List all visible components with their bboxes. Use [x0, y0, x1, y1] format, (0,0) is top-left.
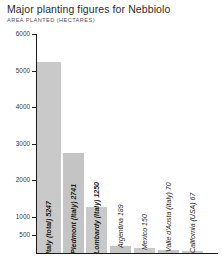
y-tick-label: 2000: [16, 176, 30, 183]
bar-label: Piedmont (Italy) 2741: [70, 184, 77, 254]
y-tick-mark: [32, 180, 36, 181]
bar-label: Argentina 189: [117, 205, 124, 249]
y-tick-label: 3000: [16, 140, 30, 147]
y-tick-mark: [32, 34, 36, 35]
y-tick-label: 1000: [16, 213, 30, 220]
x-axis-line: [36, 253, 218, 254]
y-tick-label: 500: [19, 231, 30, 238]
chart-container: Major planting figures for Nebbiolo AREA…: [0, 0, 222, 277]
y-tick-label: 5000: [16, 67, 30, 74]
chart-subtitle: AREA PLANTED (HECTARES): [7, 17, 95, 23]
chart-title: Major planting figures for Nebbiolo: [7, 3, 170, 15]
y-tick-label: 6000: [16, 30, 30, 37]
y-tick-mark: [32, 217, 36, 218]
y-tick-mark: [32, 107, 36, 108]
y-tick-mark: [32, 235, 36, 236]
bars-layer: Italy (total) 5247Piedmont (Italy) 2741L…: [37, 34, 218, 253]
bar-label: Lombardy (Italy) 1250: [93, 182, 100, 254]
y-tick-label: 4000: [16, 103, 30, 110]
bar-label: California (USA) 67: [189, 192, 196, 252]
bar-label: Italy (total) 5247: [45, 201, 52, 254]
bar-label: Valle d'Aosta (Italy) 70: [165, 183, 172, 253]
y-tick-mark: [32, 144, 36, 145]
y-tick-mark: [32, 71, 36, 72]
bar-label: Mexico 150: [141, 214, 148, 250]
